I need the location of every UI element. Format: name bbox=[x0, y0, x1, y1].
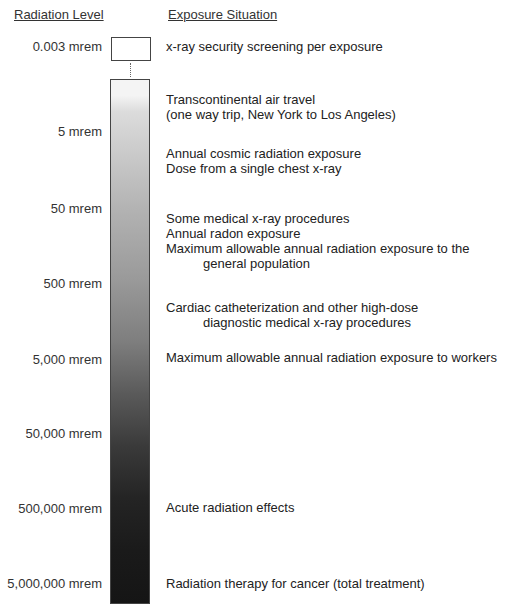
radiation-level-label: 50,000 mrem bbox=[25, 426, 102, 441]
exposure-situation-item: Some medical x-ray proceduresAnnual rado… bbox=[166, 211, 470, 271]
radiation-level-label: 5,000 mrem bbox=[33, 352, 102, 367]
low-dose-box bbox=[111, 37, 151, 61]
situation-line: Cardiac catheterization and other high-d… bbox=[166, 300, 418, 315]
situation-line: Acute radiation effects bbox=[166, 500, 294, 515]
radiation-gradient-bar bbox=[110, 79, 150, 604]
situation-line: Some medical x-ray procedures bbox=[166, 211, 470, 226]
radiation-level-label: 50 mrem bbox=[51, 201, 102, 216]
exposure-situation-item: Maximum allowable annual radiation expos… bbox=[166, 350, 497, 365]
radiation-level-label: 500,000 mrem bbox=[18, 501, 102, 516]
radiation-level-header: Radiation Level bbox=[14, 7, 104, 22]
situation-line: Maximum allowable annual radiation expos… bbox=[166, 241, 470, 256]
situation-line: Annual cosmic radiation exposure bbox=[166, 146, 361, 161]
exposure-situation-header: Exposure Situation bbox=[168, 7, 277, 22]
radiation-level-label: 5 mrem bbox=[58, 124, 102, 139]
radiation-level-label: 5,000,000 mrem bbox=[7, 576, 102, 591]
situation-line: (one way trip, New York to Los Angeles) bbox=[166, 107, 396, 122]
exposure-situation-item: Radiation therapy for cancer (total trea… bbox=[166, 576, 425, 591]
situation-line: x-ray security screening per exposure bbox=[166, 39, 383, 54]
scale-break-dots bbox=[130, 63, 131, 77]
radiation-level-label: 0.003 mrem bbox=[33, 39, 102, 54]
situation-line: Annual radon exposure bbox=[166, 226, 470, 241]
exposure-situation-item: Acute radiation effects bbox=[166, 500, 294, 515]
exposure-situation-item: Transcontinental air travel(one way trip… bbox=[166, 92, 396, 122]
radiation-level-label: 500 mrem bbox=[43, 276, 102, 291]
exposure-situation-item: Annual cosmic radiation exposureDose fro… bbox=[166, 146, 361, 176]
exposure-situation-item: Cardiac catheterization and other high-d… bbox=[166, 300, 418, 330]
situation-line-indented: general population bbox=[166, 256, 470, 271]
situation-line: Radiation therapy for cancer (total trea… bbox=[166, 576, 425, 591]
situation-line: Maximum allowable annual radiation expos… bbox=[166, 350, 497, 365]
situation-line: Dose from a single chest x-ray bbox=[166, 161, 361, 176]
situation-line-indented: diagnostic medical x-ray procedures bbox=[166, 315, 418, 330]
exposure-situation-item: x-ray security screening per exposure bbox=[166, 39, 383, 54]
situation-line: Transcontinental air travel bbox=[166, 92, 396, 107]
